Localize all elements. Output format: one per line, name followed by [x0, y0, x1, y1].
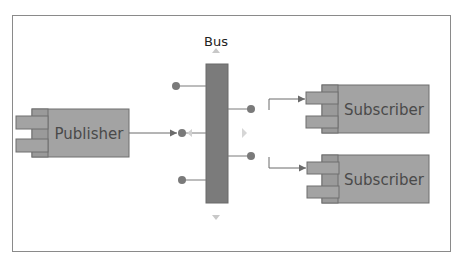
subscribe-connector-2[interactable] — [269, 157, 306, 168]
bus-port-right-bottom[interactable] — [228, 152, 255, 160]
bus-bar[interactable] — [206, 64, 228, 203]
bus-port-left-middle[interactable] — [178, 129, 206, 137]
subscriber-1-port-bottom — [306, 116, 338, 128]
subscriber-2-port-bottom — [307, 186, 339, 198]
subscriber-component-1[interactable]: Subscriber — [306, 85, 429, 133]
triangle-left-icon — [187, 129, 192, 137]
subscribe-connector-1[interactable] — [269, 99, 305, 110]
bus-port-right-top[interactable] — [228, 105, 255, 113]
publisher-port-top — [16, 116, 48, 129]
bus-label: Bus — [204, 34, 228, 49]
bus-port-left-bottom[interactable] — [178, 176, 206, 184]
triangle-right-icon[interactable] — [242, 128, 247, 138]
publisher-label: Publisher — [55, 125, 125, 143]
subscriber-1-port-top — [306, 92, 338, 104]
pubsub-diagram: Publisher Bus Subscriber — [0, 0, 463, 264]
subscriber-1-label: Subscriber — [344, 101, 425, 119]
subscriber-2-label: Subscriber — [344, 171, 425, 189]
bus-port-left-top[interactable] — [172, 82, 206, 90]
publisher-port-bottom — [16, 139, 48, 152]
publisher-component[interactable]: Publisher — [16, 109, 129, 157]
triangle-down-icon[interactable] — [212, 215, 220, 220]
subscriber-component-2[interactable]: Subscriber — [307, 155, 429, 203]
subscriber-2-port-top — [307, 162, 339, 174]
